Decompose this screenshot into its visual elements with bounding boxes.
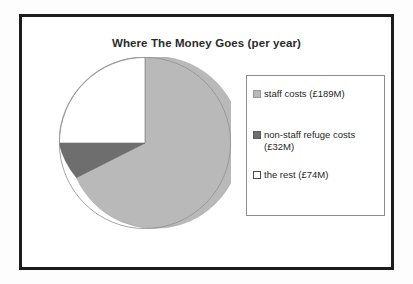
pie-chart bbox=[59, 57, 231, 229]
chart-frame: Where The Money Goes (per year) staff co… bbox=[19, 14, 394, 270]
chart-legend: staff costs (£189M) non-staff refuge cos… bbox=[246, 75, 385, 216]
legend-item-staff-costs: staff costs (£189M) bbox=[253, 88, 380, 100]
pie-slice-the-rest bbox=[59, 57, 145, 143]
legend-item-the-rest: the rest (£74M) bbox=[253, 169, 380, 181]
legend-label-non-staff-refuge-costs: non-staff refuge costs (£32M) bbox=[264, 129, 355, 152]
legend-label-staff-costs: staff costs (£189M) bbox=[264, 88, 345, 100]
dark-gray-swatch-icon bbox=[253, 131, 261, 139]
legend-label-the-rest: the rest (£74M) bbox=[264, 169, 328, 181]
white-swatch-icon bbox=[253, 171, 261, 179]
legend-label-line-2: (£32M) bbox=[264, 141, 355, 153]
light-gray-swatch-icon bbox=[253, 90, 261, 98]
pie-chart-svg bbox=[59, 57, 231, 229]
legend-label-line-1: non-staff refuge costs bbox=[264, 129, 355, 141]
chart-page: Where The Money Goes (per year) staff co… bbox=[0, 0, 413, 284]
chart-title: Where The Money Goes (per year) bbox=[22, 37, 391, 49]
legend-item-non-staff-refuge-costs: non-staff refuge costs (£32M) bbox=[253, 129, 380, 152]
